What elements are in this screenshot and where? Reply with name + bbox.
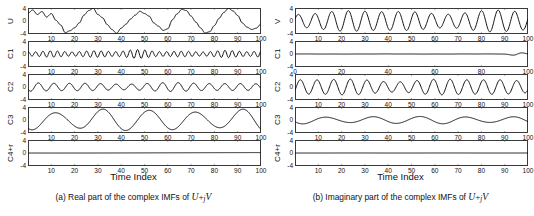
signal-plot [295, 74, 528, 100]
plot-panel-c3: C340-4102030405060708090100 [267, 107, 534, 133]
y-tick-label: 0 [289, 84, 293, 91]
y-tick-label: 4 [289, 138, 293, 145]
signal-trace [295, 79, 528, 95]
plot-area-c4-plus-r: 40-4102030405060708090100 [295, 140, 528, 166]
plot-panel-u: U40-4102030405060708090100 [0, 8, 267, 34]
y-tick-label: 4 [289, 39, 293, 46]
x-tick-label: 20 [338, 167, 345, 174]
y-tick-label: 4 [22, 105, 26, 112]
signal-trace [28, 8, 261, 33]
plot-area-c3: 40-4102030405060708090100 [28, 107, 261, 133]
y-tick-label: 0 [289, 150, 293, 157]
y-tick-label: 0 [22, 150, 26, 157]
plot-panel-c1: C140-4020406080100 [267, 41, 534, 67]
y-tick-label: -4 [20, 163, 26, 170]
caption-text-b: (b) Imaginary part of the complex IMFs o… [313, 192, 468, 202]
signal-trace [28, 50, 261, 59]
y-tick-label: -4 [287, 130, 293, 137]
y-axis-label-c2: C2 [2, 74, 18, 100]
x-tick-label: 50 [141, 167, 148, 174]
x-tick-label: 100 [256, 167, 267, 174]
panel-stack-b: V40-4102030405060708090100C140-402040608… [267, 0, 534, 170]
x-tick-label: 80 [211, 167, 218, 174]
y-tick-label: -4 [287, 163, 293, 170]
signal-trace [295, 10, 528, 32]
y-tick-label: 0 [289, 18, 293, 25]
x-tick-label-row: 102030405060708090100 [28, 166, 261, 177]
y-tick-label: 0 [22, 51, 26, 58]
caption-math-v-a: V [206, 191, 212, 202]
y-tick-label: 4 [289, 6, 293, 13]
plot-area-u: 40-4102030405060708090100 [28, 8, 261, 34]
plot-area-c1: 40-4102030405060708090100 [28, 41, 261, 67]
plot-area-c1: 40-4020406080100 [295, 41, 528, 67]
y-tick-label: 0 [289, 117, 293, 124]
y-tick-label: 4 [289, 72, 293, 79]
y-tick-label: -4 [20, 31, 26, 38]
x-tick-label-row: 102030405060708090100 [295, 166, 528, 177]
plot-panel-c1: C140-4102030405060708090100 [0, 41, 267, 67]
subfigure-b-imaginary-part: V40-4102030405060708090100C140-402040608… [267, 0, 534, 216]
y-axis-label-v: V [269, 8, 285, 34]
y-axis-label-c2: C2 [269, 74, 285, 100]
y-tick-label: 0 [22, 117, 26, 124]
y-axis-label-c3: C3 [269, 107, 285, 133]
signal-plot [295, 41, 528, 67]
y-tick-label: -4 [20, 97, 26, 104]
x-tick-label: 30 [361, 167, 368, 174]
x-tick-label: 20 [71, 167, 78, 174]
y-axis-label-c3: C3 [2, 107, 18, 133]
plot-panel-c2: C240-4102030405060708090100 [267, 74, 534, 100]
y-tick-label: -4 [287, 64, 293, 71]
y-tick-label: 4 [289, 105, 293, 112]
x-tick-label: 60 [431, 167, 438, 174]
y-axis-label-c1: C1 [2, 41, 18, 67]
x-tick-label: 10 [48, 167, 55, 174]
subfigure-caption-a: (a) Real part of the complex IMFs of U+j… [56, 191, 212, 203]
y-tick-label: -4 [287, 31, 293, 38]
plot-area-c4-plus-r: 40-4102030405060708090100 [28, 140, 261, 166]
signal-plot [28, 140, 261, 166]
signal-trace [28, 109, 261, 130]
y-tick-label: 4 [22, 39, 26, 46]
y-tick-label: 0 [22, 84, 26, 91]
y-axis-label-u: U [2, 8, 18, 34]
x-tick-label: 90 [501, 167, 508, 174]
y-tick-label: 0 [22, 18, 26, 25]
plot-area-c2: 40-4102030405060708090100 [295, 74, 528, 100]
x-tick-label: 70 [454, 167, 461, 174]
subfigure-a-real-part: U40-4102030405060708090100C140-410203040… [0, 0, 267, 216]
x-tick-label: 50 [408, 167, 415, 174]
x-tick-label: 40 [385, 167, 392, 174]
caption-text-a: (a) Real part of the complex IMFs of [56, 192, 192, 202]
signal-trace [295, 116, 528, 123]
x-tick-label: 10 [315, 167, 322, 174]
y-tick-label: 4 [22, 6, 26, 13]
signal-plot [295, 8, 528, 34]
caption-math-v-b: V [482, 191, 488, 202]
signal-plot [28, 41, 261, 67]
signal-plot [28, 8, 261, 34]
signal-trace [295, 53, 528, 55]
plot-area-c3: 40-4102030405060708090100 [295, 107, 528, 133]
x-tick-label: 40 [118, 167, 125, 174]
x-tick-label: 100 [523, 167, 534, 174]
y-tick-label: 4 [22, 72, 26, 79]
x-tick-label: 30 [94, 167, 101, 174]
y-tick-label: -4 [287, 97, 293, 104]
plot-area-c2: 40-4102030405060708090100 [28, 74, 261, 100]
signal-plot [28, 107, 261, 133]
figure-complex-imfs: U40-4102030405060708090100C140-410203040… [0, 0, 534, 216]
x-tick-label: 80 [478, 167, 485, 174]
y-tick-label: -4 [20, 64, 26, 71]
signal-plot [295, 140, 528, 166]
panel-stack-a: U40-4102030405060708090100C140-410203040… [0, 0, 267, 170]
subfigure-caption-b: (b) Imaginary part of the complex IMFs o… [313, 191, 488, 203]
plot-panel-v: V40-4102030405060708090100 [267, 8, 534, 34]
plot-area-v: 40-4102030405060708090100 [295, 8, 528, 34]
x-tick-label: 90 [234, 167, 241, 174]
plot-panel-c4-plus-r: C4+r40-4102030405060708090100 [267, 140, 534, 166]
plot-panel-c3: C340-4102030405060708090100 [0, 107, 267, 133]
x-tick-label: 70 [187, 167, 194, 174]
y-tick-label: -4 [20, 130, 26, 137]
